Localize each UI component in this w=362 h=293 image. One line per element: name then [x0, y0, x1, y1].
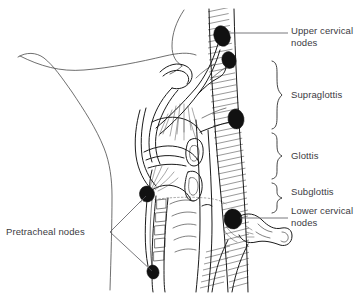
lymph-nodes	[138, 24, 246, 281]
mid-cervical-node	[226, 108, 245, 130]
clavicle-vessel-branch	[239, 214, 292, 246]
leader-pretracheal-upper	[110, 196, 146, 232]
neck-soft-tissue-creases	[170, 200, 196, 252]
label-glottis: Glottis	[291, 150, 319, 162]
vein-hatching	[207, 6, 251, 288]
larynx-structures	[135, 64, 226, 292]
label-upper-cervical-nodes: Upper cervical nodes	[291, 25, 353, 48]
laryngeal-lymphatics-figure: Upper cervical nodes Supraglottis Glotti…	[0, 0, 362, 293]
label-subglottis: Subglottis	[291, 186, 334, 198]
lymphatic-plexus-subglottic	[150, 166, 178, 191]
upper-cervical-node-1	[211, 24, 233, 49]
label-lower-cervical-nodes: Lower cervical nodes	[291, 205, 353, 228]
lymphatic-vessels	[145, 44, 240, 266]
internal-jugular-vein	[200, 6, 251, 292]
brace-subglottis	[272, 183, 282, 213]
tracheal-rings	[154, 199, 166, 261]
region-braces	[272, 61, 282, 213]
head-neck-profile	[18, 10, 196, 290]
brace-supraglottis	[272, 61, 282, 129]
label-pretracheal-nodes: Pretracheal nodes	[6, 226, 85, 238]
label-supraglottis: Supraglottis	[291, 89, 342, 101]
lower-cervical-node	[223, 208, 244, 230]
pretracheal-node-upper	[138, 184, 157, 203]
brace-glottis	[272, 133, 282, 179]
